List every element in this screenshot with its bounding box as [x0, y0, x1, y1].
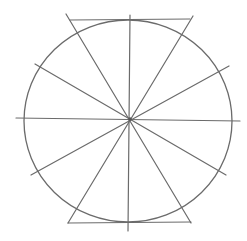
- center-point: [128, 117, 132, 121]
- top-cap-line: [70, 19, 190, 20]
- radial-circle-diagram: [0, 0, 247, 241]
- bottom-cap-line: [68, 222, 191, 223]
- radial-lines: [16, 14, 240, 231]
